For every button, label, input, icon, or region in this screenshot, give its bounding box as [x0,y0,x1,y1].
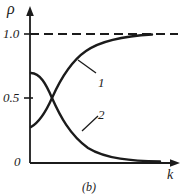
curve-1 [31,35,152,128]
figure-caption: (b) [82,181,96,193]
y-axis-label: ρ [7,1,15,17]
curve-1-leader-line [78,60,96,73]
curve-2 [31,73,160,162]
y-tick-label-0-5: 0.5 [3,91,19,104]
y-tick-label-1-0: 1.0 [3,27,19,40]
y-tick-label-0: 0 [14,155,21,168]
figure-panel: ρ k 1.0 0.5 0 1 2 (b) [0,0,186,196]
x-axis-label: k [167,168,173,182]
y-axis [26,6,34,163]
curve-2-leader-line [82,116,98,131]
chart-canvas [0,0,186,196]
curve-2-label: 2 [98,108,105,121]
y-axis-ticks [24,34,33,98]
curve-1-label: 1 [98,76,105,89]
